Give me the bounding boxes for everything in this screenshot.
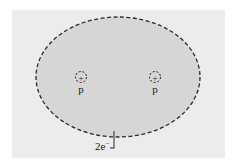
proton-charge-symbol: + bbox=[152, 73, 157, 83]
proton-label: p bbox=[152, 83, 158, 95]
proton-charge-symbol: + bbox=[78, 73, 83, 83]
electron-count-label: 2e− bbox=[95, 140, 109, 152]
proton-label: p bbox=[78, 83, 84, 95]
electron-cloud bbox=[36, 17, 200, 137]
h2-molecule-diagram: + p + p 2e− bbox=[0, 0, 234, 167]
